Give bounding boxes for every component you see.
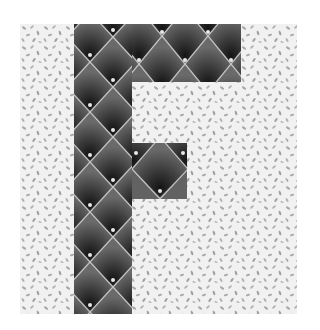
quilted-diamond-pattern — [132, 143, 187, 199]
quilted-diamond-pattern — [132, 24, 241, 82]
letter-f-middle-bar — [132, 143, 187, 199]
quilted-diamond-pattern — [74, 24, 132, 314]
letter-f-top-bar — [132, 24, 241, 82]
letter-f-stem — [74, 24, 132, 314]
